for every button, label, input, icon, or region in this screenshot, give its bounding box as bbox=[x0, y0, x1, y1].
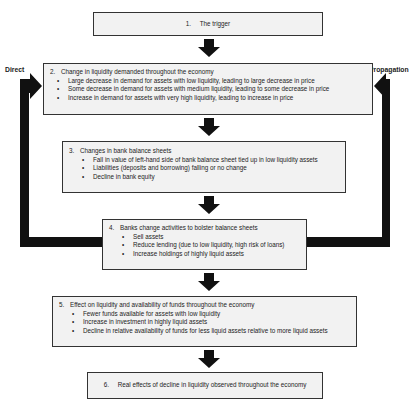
step-6-real-effects-box: 6. Real effects of decline in liquidity … bbox=[87, 372, 323, 399]
arrow-5-to-6 bbox=[198, 350, 220, 368]
propagation-label: Propagation bbox=[369, 66, 409, 73]
step-4-bank-activities-box: 4.Banks change activities to bolster bal… bbox=[102, 219, 307, 270]
arrow-1-to-2 bbox=[198, 39, 220, 57]
step-1-trigger-box: 1. The trigger bbox=[93, 12, 323, 36]
arrow-4-to-5 bbox=[198, 273, 220, 291]
step-2-liquidity-demand-box: 2.Change in liquidity demanded throughou… bbox=[43, 63, 373, 115]
step-title: Effect on liquidity and availability of … bbox=[70, 301, 254, 308]
bullet-item: Sell assets bbox=[133, 233, 306, 242]
step-number: 3. bbox=[69, 147, 80, 156]
bullet-item: Large decrease in demand for assets with… bbox=[68, 77, 372, 86]
bullet-item: Decline in relative availability of fund… bbox=[83, 327, 356, 336]
bullet-item: Liabilities (deposits and borrowing) fal… bbox=[93, 164, 345, 173]
step-title: Change in liquidity demanded throughout … bbox=[61, 68, 214, 75]
bullet-item: Increase in demand for assets with very … bbox=[68, 94, 372, 103]
step-number: 4. bbox=[109, 224, 120, 233]
step-number: 2. bbox=[50, 68, 61, 77]
step-title: Banks change activities to bolster balan… bbox=[120, 224, 258, 231]
arrow-2-to-3 bbox=[198, 118, 220, 136]
bullet-item: Increase holdings of highly liquid asset… bbox=[133, 250, 306, 259]
bullet-item: Fewer funds available for assets with lo… bbox=[83, 310, 356, 319]
step-number: 5. bbox=[59, 301, 70, 310]
bullet-item: Increase in investment in highly liquid … bbox=[83, 318, 356, 327]
step-title: Changes in bank balance sheets bbox=[80, 147, 171, 154]
direct-label: Direct bbox=[5, 66, 24, 73]
step-number: 1. bbox=[186, 20, 197, 29]
bullet-item: Some decrease in demand for assets with … bbox=[68, 85, 372, 94]
bullet-item: Reduce lending (due to low liquidity, hi… bbox=[133, 241, 306, 250]
bullet-item: Decline in bank equity bbox=[93, 173, 345, 182]
step-title: Real effects of decline in liquidity obs… bbox=[118, 381, 307, 390]
arrow-3-to-4 bbox=[198, 196, 220, 214]
bullet-item: Fall in value of left-hand side of bank … bbox=[93, 156, 345, 165]
connector-layer bbox=[0, 0, 418, 409]
step-5-funds-availability-box: 5.Effect on liquidity and availability o… bbox=[52, 296, 357, 347]
step-title: The trigger bbox=[200, 20, 230, 29]
step-number: 6. bbox=[104, 381, 115, 390]
step-3-bank-balance-sheets-box: 3.Changes in bank balance sheets Fall in… bbox=[62, 141, 346, 193]
